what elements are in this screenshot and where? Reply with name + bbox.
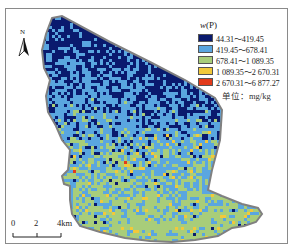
legend-item: 44.31～419.45 — [198, 32, 288, 43]
legend-item: 2 670.31～6 877.27 — [198, 76, 288, 87]
legend-swatch — [198, 34, 213, 42]
legend-title: w(P) — [200, 20, 288, 30]
legend-unit: 单位：mg/kg — [222, 89, 288, 101]
legend-swatch — [198, 67, 213, 75]
scale-bar: 0 2 4km — [10, 218, 85, 240]
north-arrow-icon — [17, 30, 31, 60]
legend-swatch — [198, 56, 213, 64]
legend-item: 1 089.35～2 670.31 — [198, 65, 288, 76]
scale-bar-line — [10, 218, 85, 240]
legend-item: 419.45～678.41 — [198, 43, 288, 54]
legend: w(P) 44.31～419.45 419.45～678.41 678.41～1… — [198, 20, 288, 101]
legend-swatch — [198, 78, 213, 86]
legend-item: 678.41～1 089.35 — [198, 54, 288, 65]
legend-swatch — [198, 45, 213, 53]
